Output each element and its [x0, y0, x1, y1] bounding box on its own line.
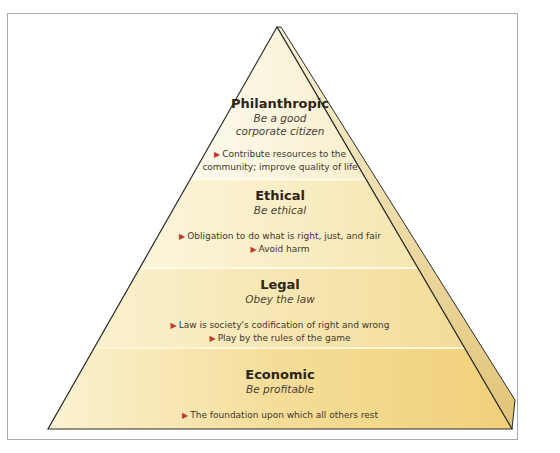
triangle-right-icon: ▶ — [179, 232, 185, 241]
tier-title: Economic — [0, 367, 560, 383]
tier-bullet: ▶Law is society's codification of right … — [0, 319, 560, 332]
tier-title: Philanthropic — [0, 96, 560, 112]
tier-philanthropic: Philanthropic Be a good corporate citize… — [0, 96, 560, 174]
tier-subtitle: Obey the law — [0, 293, 560, 306]
tier-title: Legal — [0, 277, 560, 293]
tier-title: Ethical — [0, 188, 560, 204]
tier-bullet-cont: community; improve quality of life — [0, 161, 560, 174]
tier-legal: Legal Obey the law ▶Law is society's cod… — [0, 277, 560, 345]
tier-bullet: ▶Contribute resources to the — [0, 148, 560, 161]
tier-subtitle: Be ethical — [0, 204, 560, 217]
tier-bullet: ▶The foundation upon which all others re… — [0, 409, 560, 422]
triangle-right-icon: ▶ — [182, 411, 188, 420]
tier-subtitle: Be profitable — [0, 383, 560, 396]
tier-bullet: ▶Obligation to do what is right, just, a… — [0, 230, 560, 243]
tier-subtitle: Be a good — [0, 112, 560, 125]
triangle-right-icon: ▶ — [170, 321, 176, 330]
tier-ethical: Ethical Be ethical ▶Obligation to do wha… — [0, 188, 560, 256]
tier-economic: Economic Be profitable ▶The foundation u… — [0, 367, 560, 422]
triangle-right-icon: ▶ — [214, 150, 220, 159]
tier-bullet: ▶Avoid harm — [0, 243, 560, 256]
triangle-right-icon: ▶ — [209, 334, 215, 343]
tier-bullet: ▶Play by the rules of the game — [0, 332, 560, 345]
triangle-right-icon: ▶ — [250, 245, 256, 254]
tier-subtitle: corporate citizen — [0, 125, 560, 138]
